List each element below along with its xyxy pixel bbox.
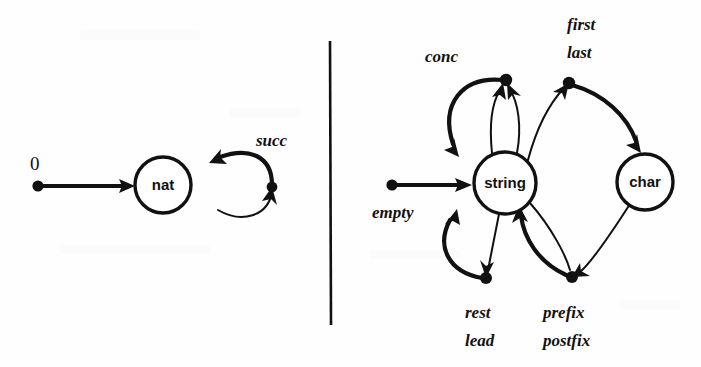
label-last: last bbox=[567, 43, 593, 62]
firstlast-argument-arc bbox=[528, 88, 564, 160]
succ-tentacle-dot bbox=[267, 182, 278, 193]
label-prefix: prefix bbox=[541, 303, 585, 322]
conc-argument-arc-1 bbox=[491, 90, 500, 153]
prefixpostfix-tentacle-dot bbox=[566, 271, 578, 283]
conc-argument-arc-2 bbox=[510, 90, 519, 153]
node-string-label: string bbox=[484, 174, 526, 191]
panel-divider bbox=[330, 41, 331, 325]
label-zero: 0 bbox=[30, 153, 40, 174]
label-postfix: postfix bbox=[541, 331, 591, 350]
prefixpostfix-argument-arc-string bbox=[530, 203, 570, 270]
node-nat-label: nat bbox=[152, 176, 175, 193]
conc-result-arc bbox=[449, 80, 503, 144]
firstlast-tentacle-dot bbox=[563, 77, 575, 89]
label-lead: lead bbox=[465, 331, 495, 350]
label-rest: rest bbox=[465, 303, 492, 322]
label-first: first bbox=[567, 15, 597, 34]
prefixpostfix-argument-arc-char bbox=[580, 204, 630, 272]
restlead-result-arc bbox=[444, 220, 482, 278]
label-succ: succ bbox=[255, 131, 288, 150]
firstlast-result-arc bbox=[572, 85, 636, 141]
figure-canvas: nat 0 succ bbox=[0, 0, 701, 367]
string-char-panel: string char conc first last empty rest l… bbox=[372, 15, 673, 350]
node-char-label: char bbox=[629, 173, 661, 190]
nat-panel: nat 0 succ bbox=[30, 131, 288, 217]
succ-result-arc bbox=[220, 153, 272, 185]
conc-tentacle-dot bbox=[500, 74, 512, 86]
label-empty: empty bbox=[372, 203, 414, 222]
restlead-tentacle-dot bbox=[480, 272, 492, 284]
restlead-argument-arc bbox=[488, 214, 499, 270]
label-conc: conc bbox=[425, 47, 459, 66]
succ-argument-arc bbox=[218, 192, 272, 217]
restlead-result-arrowhead bbox=[445, 209, 460, 225]
